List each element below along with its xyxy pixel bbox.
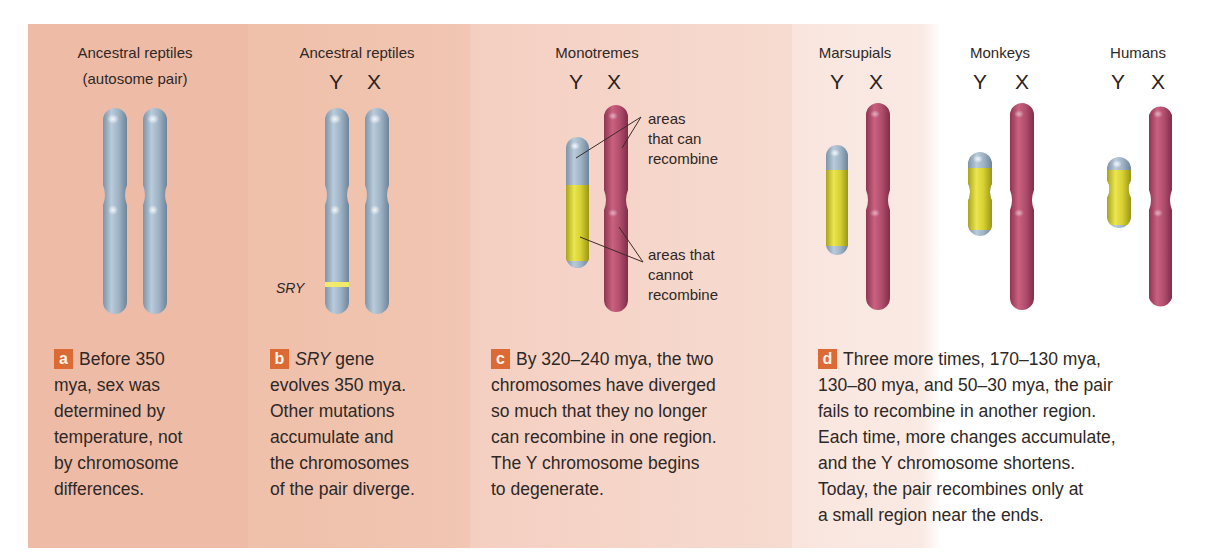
badge-b: b xyxy=(270,349,289,369)
panel-b-x-label: X xyxy=(367,70,381,94)
panel-a-subheader: (autosome pair) xyxy=(82,70,187,87)
x-chromosome-monotreme xyxy=(604,105,628,312)
autosome-right xyxy=(143,108,167,314)
panel-c-x-label: X xyxy=(607,70,621,94)
panel-d-caption: dThree more times, 170–130 mya, 130–80 m… xyxy=(818,346,1218,528)
badge-d: d xyxy=(818,349,837,369)
y-chromosome-marsupial xyxy=(826,145,848,255)
sry-gene-band xyxy=(325,282,349,287)
y-chromosome-monkey xyxy=(968,150,992,240)
monkeys-x-label: X xyxy=(1015,70,1029,94)
x-chromosome-monkey xyxy=(1010,103,1034,310)
badge-c: c xyxy=(491,349,510,369)
x-chromosome-ancestral xyxy=(365,108,389,314)
panel-a-header: Ancestral reptiles xyxy=(77,44,192,61)
monkeys-y-label: Y xyxy=(973,70,987,94)
marsupials-header: Marsupials xyxy=(819,44,892,61)
annotation-cannot-recombine: areas that cannot recombine xyxy=(648,245,718,305)
panel-b-header: Ancestral reptiles xyxy=(299,44,414,61)
panel-c-header: Monotremes xyxy=(555,44,638,61)
panel-a-caption: aBefore 350 mya, sex was determined by t… xyxy=(54,346,244,502)
x-chromosome-marsupial xyxy=(866,103,890,310)
autosome-left xyxy=(103,108,127,314)
panel-b-y-label: Y xyxy=(329,70,343,94)
y-chromosome-ancestral xyxy=(325,108,349,314)
annotation-can-recombine: areas that can recombine xyxy=(648,109,718,169)
badge-a: a xyxy=(54,349,73,369)
humans-y-label: Y xyxy=(1111,70,1125,94)
marsupials-y-label: Y xyxy=(830,70,844,94)
humans-header: Humans xyxy=(1110,44,1166,61)
monkeys-header: Monkeys xyxy=(970,44,1030,61)
y-chromosome-human xyxy=(1107,155,1131,231)
marsupials-x-label: X xyxy=(869,70,883,94)
humans-x-label: X xyxy=(1151,70,1165,94)
x-chromosome-human xyxy=(1149,106,1172,306)
panel-b-caption: bSRY gene evolves 350 mya. Other mutatio… xyxy=(270,346,470,502)
panel-c-y-label: Y xyxy=(569,70,583,94)
panel-c-caption: cBy 320–240 mya, the two chromosomes hav… xyxy=(491,346,791,502)
sry-gene-label: SRY xyxy=(276,280,304,296)
